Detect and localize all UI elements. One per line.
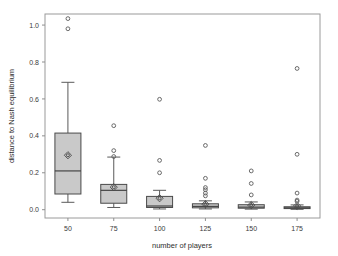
x-tick-label: 125 xyxy=(200,225,212,232)
x-axis-title: number of players xyxy=(152,241,212,250)
x-tick-label: 150 xyxy=(245,225,257,232)
box-iqr xyxy=(55,133,81,194)
box-iqr xyxy=(101,184,127,203)
y-tick-label: 0.0 xyxy=(29,206,39,213)
x-tick-label: 75 xyxy=(110,225,118,232)
x-tick-label: 100 xyxy=(154,225,166,232)
y-tick-label: 0.4 xyxy=(29,132,39,139)
x-tick-label: 50 xyxy=(64,225,72,232)
y-tick-label: 1.0 xyxy=(29,22,39,29)
y-axis-title: distance to Nash equilibrium xyxy=(7,69,16,163)
y-tick-label: 0.6 xyxy=(29,96,39,103)
y-tick-label: 0.8 xyxy=(29,59,39,66)
boxplot-svg: 0.00.20.40.60.81.0 5075100125150175 dist… xyxy=(0,0,338,256)
boxplot-figure: 0.00.20.40.60.81.0 5075100125150175 dist… xyxy=(0,0,338,256)
x-tick-label: 175 xyxy=(291,225,303,232)
y-tick-label: 0.2 xyxy=(29,169,39,176)
